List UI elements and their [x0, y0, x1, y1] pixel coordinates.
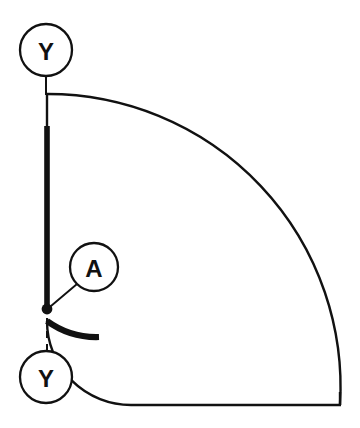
technical-drawing-svg: Y A Y	[0, 0, 360, 428]
balloon-a[interactable]: A	[70, 243, 118, 291]
emphasised-feature-group	[47, 126, 99, 337]
balloon-y-top[interactable]: Y	[20, 24, 72, 76]
thick-arc-segment	[47, 321, 99, 337]
leader-line-a	[51, 284, 77, 306]
balloon-a-label: A	[85, 255, 102, 282]
drawing-canvas: Y A Y	[0, 0, 360, 428]
balloon-y-bottom-label: Y	[38, 365, 54, 392]
balloon-y-top-label: Y	[38, 38, 54, 65]
balloon-y-bottom[interactable]: Y	[20, 351, 72, 403]
